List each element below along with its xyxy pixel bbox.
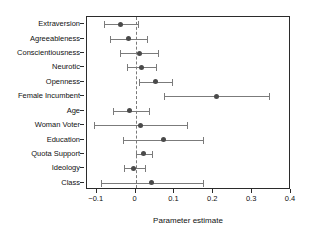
- ci-lower-cap: [164, 93, 165, 100]
- ci-upper-cap: [147, 36, 148, 43]
- ci-upper-cap: [203, 180, 204, 187]
- ci-lower-cap: [124, 165, 125, 172]
- y-axis-tick-label: Quota Support: [31, 148, 80, 157]
- ci-lower-cap: [139, 79, 140, 86]
- ci-lower-cap: [136, 151, 137, 158]
- ci-upper-cap: [203, 137, 204, 144]
- y-axis-tick: [80, 153, 84, 154]
- ci-lower-cap: [113, 108, 114, 115]
- ci-upper-cap: [149, 108, 150, 115]
- y-axis-tick: [80, 38, 84, 39]
- x-axis-tick-label: −0.1: [88, 194, 103, 203]
- y-axis-tick-label: Extraversion: [38, 19, 80, 28]
- y-axis-tick: [80, 81, 84, 82]
- ci-upper-cap: [172, 79, 173, 86]
- ci-lower-cap: [94, 122, 95, 129]
- ci-lower-cap: [104, 21, 105, 28]
- estimate-point: [126, 36, 131, 41]
- plot-area: [86, 16, 290, 189]
- estimate-point: [141, 151, 146, 156]
- y-axis-tick: [80, 182, 84, 183]
- x-axis-tick-label: 0.4: [285, 194, 295, 203]
- estimate-point: [137, 51, 142, 56]
- y-axis-tick: [80, 95, 84, 96]
- x-axis-tick-label: 0.1: [168, 194, 178, 203]
- coefficient-plot: ExtraversionAgreeablenessConscientiousne…: [0, 0, 310, 238]
- y-axis-tick: [80, 139, 84, 140]
- estimate-point: [138, 123, 143, 128]
- x-axis-title: Parameter estimate: [86, 216, 290, 225]
- y-axis-tick-label: Ideology: [52, 163, 80, 172]
- estimate-point: [127, 108, 132, 113]
- y-axis-tick: [80, 167, 84, 168]
- ci-lower-cap: [101, 180, 102, 187]
- y-axis-tick: [80, 124, 84, 125]
- ci-lower-cap: [120, 50, 121, 57]
- x-axis: −0.100.10.20.30.4: [86, 189, 290, 209]
- y-axis-tick-label: Woman Voter: [35, 120, 80, 129]
- ci-upper-cap: [187, 122, 188, 129]
- ci-upper-cap: [138, 21, 139, 28]
- x-axis-tick-label: 0.2: [207, 194, 217, 203]
- x-axis-tick: [212, 189, 213, 193]
- x-axis-tick: [290, 189, 291, 193]
- y-axis-tick-label: Age: [67, 105, 80, 114]
- ci-upper-cap: [145, 165, 146, 172]
- ci-lower-cap: [123, 137, 124, 144]
- x-axis-tick: [251, 189, 252, 193]
- y-axis-tick-label: Female Incumbent: [18, 91, 80, 100]
- ci-upper-cap: [156, 64, 157, 71]
- estimate-point: [118, 22, 123, 27]
- y-axis-tick-label: Conscientiousness: [17, 48, 80, 57]
- ci-upper-cap: [152, 151, 153, 158]
- y-axis-tick-label: Education: [47, 134, 80, 143]
- ci-upper-cap: [158, 50, 159, 57]
- zero-reference-line: [136, 17, 137, 188]
- x-axis-tick-label: 0.3: [246, 194, 256, 203]
- y-axis-labels: ExtraversionAgreeablenessConscientiousne…: [0, 16, 80, 189]
- y-axis-tick-label: Openness: [46, 76, 80, 85]
- ci-lower-cap: [110, 36, 111, 43]
- y-axis-tick: [80, 110, 84, 111]
- estimate-point: [153, 79, 158, 84]
- estimate-point: [161, 137, 166, 142]
- x-axis-tick: [135, 189, 136, 193]
- y-axis-tick: [80, 52, 84, 53]
- y-axis-tick-label: Agreeableness: [30, 33, 80, 42]
- y-axis-tick-label: Neurotic: [52, 62, 80, 71]
- estimate-point: [149, 180, 154, 185]
- estimate-point: [139, 65, 144, 70]
- ci-upper-cap: [269, 93, 270, 100]
- estimate-point: [131, 166, 136, 171]
- ci-lower-cap: [127, 64, 128, 71]
- y-axis-tick: [80, 23, 84, 24]
- estimate-point: [214, 94, 219, 99]
- x-axis-tick: [173, 189, 174, 193]
- y-axis-tick: [80, 66, 84, 67]
- x-axis-tick-label: 0: [132, 194, 136, 203]
- x-axis-tick: [96, 189, 97, 193]
- y-axis-tick-label: Class: [61, 177, 80, 186]
